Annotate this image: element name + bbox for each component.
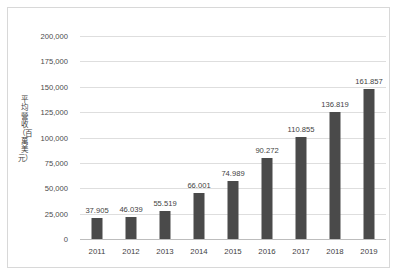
x-axis: 201120122013201420152016201720182019 bbox=[80, 241, 386, 261]
x-tick-label-2016: 2016 bbox=[258, 247, 275, 256]
bar-slot: 136.819 bbox=[318, 36, 352, 239]
bar-data-label: 74.989 bbox=[221, 169, 244, 178]
bar-slot: 110.855 bbox=[284, 36, 318, 239]
bar-slot: 74.989 bbox=[216, 36, 250, 239]
bar-data-label: 46.039 bbox=[119, 205, 142, 214]
y-tick-label: 125,000 bbox=[41, 108, 68, 117]
chart-frame: 平均營收（百萬美元） 025,00050,00075,000100,000125… bbox=[7, 7, 390, 268]
x-tick-label-2017: 2017 bbox=[292, 247, 309, 256]
x-tick-label-2012: 2012 bbox=[122, 247, 139, 256]
bar-2018[interactable] bbox=[330, 112, 341, 239]
y-tick-label: 175,000 bbox=[41, 57, 68, 66]
x-tick-label-2018: 2018 bbox=[326, 247, 343, 256]
bar-data-label: 37.905 bbox=[85, 206, 108, 215]
bar-data-label: 66.001 bbox=[187, 181, 210, 190]
bar-2015[interactable] bbox=[228, 181, 239, 239]
x-tick-label-2011: 2011 bbox=[89, 247, 106, 256]
bar-slot: 161.857 bbox=[352, 36, 386, 239]
y-axis-title: 平均營收（百萬美元） bbox=[18, 96, 31, 163]
y-tick-label: 25,000 bbox=[45, 209, 68, 218]
bar-2016[interactable] bbox=[262, 158, 273, 239]
bars-layer: 37.90546.03955.51966.00174.98990.272110.… bbox=[80, 36, 386, 239]
bar-data-label: 90.272 bbox=[255, 146, 278, 155]
bar-data-label: 110.855 bbox=[288, 125, 315, 134]
bar-slot: 46.039 bbox=[114, 36, 148, 239]
y-tick-label: 50,000 bbox=[45, 184, 68, 193]
y-tick-label: 0 bbox=[64, 235, 68, 244]
bar-data-label: 161.857 bbox=[355, 77, 382, 86]
x-tick-label-2013: 2013 bbox=[156, 247, 173, 256]
x-tick-label-2014: 2014 bbox=[190, 247, 207, 256]
x-tick-label-2019: 2019 bbox=[360, 247, 377, 256]
bar-slot: 66.001 bbox=[182, 36, 216, 239]
bar-2017[interactable] bbox=[296, 137, 307, 239]
bar-2019[interactable] bbox=[364, 89, 375, 239]
bar-2012[interactable] bbox=[126, 217, 137, 239]
bar-2011[interactable] bbox=[92, 218, 103, 239]
y-tick-label: 200,000 bbox=[41, 32, 68, 41]
bar-slot: 90.272 bbox=[250, 36, 284, 239]
bar-data-label: 136.819 bbox=[321, 100, 348, 109]
plot-area: 025,00050,00075,000100,000125,000150,000… bbox=[73, 36, 386, 239]
bar-data-label: 55.519 bbox=[153, 199, 176, 208]
y-tick-label: 100,000 bbox=[41, 133, 68, 142]
x-tick-label-2015: 2015 bbox=[224, 247, 241, 256]
bar-2013[interactable] bbox=[160, 211, 171, 239]
bar-slot: 37.905 bbox=[80, 36, 114, 239]
bar-slot: 55.519 bbox=[148, 36, 182, 239]
y-tick-label: 75,000 bbox=[45, 158, 68, 167]
bar-2014[interactable] bbox=[194, 193, 205, 239]
gridline-0 bbox=[80, 239, 386, 240]
y-tick-label: 150,000 bbox=[41, 82, 68, 91]
